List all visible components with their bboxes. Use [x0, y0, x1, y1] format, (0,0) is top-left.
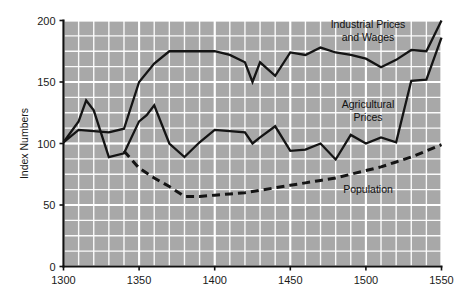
y-tick-label: 0: [49, 261, 55, 273]
y-tick-label: 100: [37, 138, 55, 150]
chart-svg: 050100150200130013501400145015001550 Ind…: [0, 0, 468, 303]
x-tick-label: 1500: [354, 274, 378, 286]
x-tick-label: 1300: [51, 274, 75, 286]
x-tick-label: 1450: [278, 274, 302, 286]
chart-container: 050100150200130013501400145015001550 Ind…: [0, 0, 468, 303]
y-tick-label: 200: [37, 15, 55, 27]
series-annotation-agricultural: Prices: [353, 111, 382, 123]
x-tick-label: 1400: [202, 274, 226, 286]
x-tick-label: 1350: [127, 274, 151, 286]
y-axis-title: Index Numbers: [18, 108, 30, 179]
y-tick-label: 150: [37, 76, 55, 88]
series-annotation-industrial: and Wages: [342, 31, 395, 43]
series-annotation-industrial: Industrial Prices: [331, 18, 406, 30]
y-axis-title-text: Index Numbers: [18, 108, 30, 179]
x-tick-label: 1550: [429, 274, 453, 286]
series-annotation-population: Population: [343, 183, 393, 195]
y-tick-label: 50: [43, 199, 55, 211]
series-annotation-agricultural: Agricultural: [342, 98, 395, 110]
